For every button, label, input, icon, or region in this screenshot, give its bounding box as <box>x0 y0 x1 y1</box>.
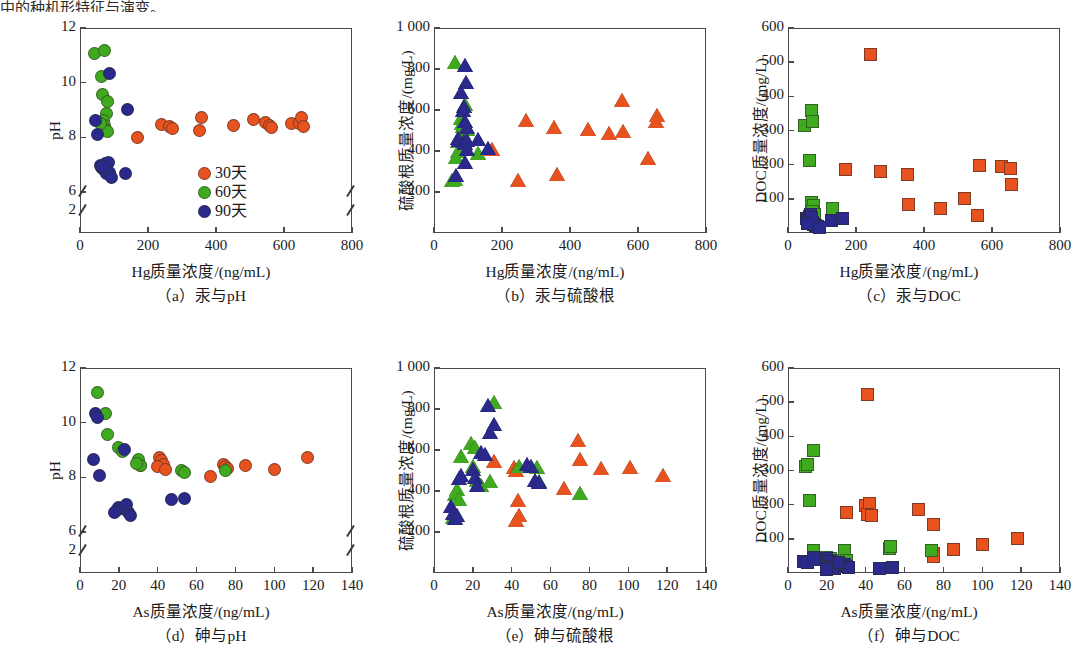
data-point-e <box>572 452 588 466</box>
x-tickmark <box>351 567 352 573</box>
legend-marker-icon <box>198 167 211 180</box>
y-tickmark <box>434 150 440 151</box>
legend-label: 30天 <box>215 163 247 182</box>
x-tickmark <box>982 567 983 573</box>
data-point-c <box>801 217 814 230</box>
data-point-a <box>166 122 179 135</box>
x-tickmark <box>855 227 856 233</box>
data-point-b <box>640 151 656 165</box>
data-point-d <box>91 411 104 424</box>
data-point-c <box>864 48 877 61</box>
x-tickmark <box>787 227 788 233</box>
data-point-c <box>839 163 852 176</box>
x-tickmark <box>923 227 924 233</box>
legend-marker-icon <box>198 205 211 218</box>
panel-caption-f: （f）砷与DOC <box>738 623 1076 645</box>
data-point-f <box>1011 532 1024 545</box>
data-point-b <box>518 113 534 127</box>
chart-panel-d: 6810122020406080100120140pHAs质量浓度/(ng/mL… <box>30 354 372 653</box>
x-tick-label: 0 <box>408 237 460 254</box>
x-tick-label: 200 <box>122 237 174 254</box>
data-point-d <box>239 459 252 472</box>
x-tickmark <box>705 567 706 573</box>
data-point-c <box>1005 178 1018 191</box>
y-tickmark <box>80 27 86 28</box>
x-tickmark <box>787 567 788 573</box>
y-tickmark <box>434 109 440 110</box>
x-tickmark <box>511 567 512 573</box>
x-tickmark <box>904 567 905 573</box>
y-tickmark <box>434 408 440 409</box>
data-point-f <box>865 509 878 522</box>
data-point-b <box>614 93 630 107</box>
x-tick-label: 800 <box>1034 237 1076 254</box>
x-tickmark <box>312 567 313 573</box>
y-tickmark <box>80 422 86 423</box>
data-point-f <box>840 506 853 519</box>
data-point-b <box>615 124 631 138</box>
data-point-e <box>486 417 502 431</box>
data-point-e <box>510 493 526 507</box>
x-tickmark <box>628 567 629 573</box>
x-tick-label: 140 <box>326 577 378 594</box>
data-point-a <box>247 113 260 126</box>
x-axis-label-d: As质量浓度/(ng/mL) <box>30 599 372 621</box>
data-point-b <box>649 108 665 122</box>
y-tickmark <box>434 27 440 28</box>
panel-caption-a: （a）汞与pH <box>30 283 372 305</box>
x-tick-label: 400 <box>544 237 596 254</box>
x-tickmark <box>433 567 434 573</box>
data-point-f <box>803 494 816 507</box>
data-point-e <box>593 461 609 475</box>
data-point-f <box>976 538 989 551</box>
x-tickmark <box>705 227 706 233</box>
y-axis-label-a: pH <box>46 28 64 233</box>
data-point-b <box>480 141 496 155</box>
data-point-d <box>91 386 104 399</box>
chart-panel-a: 68101220200400600800pHHg质量浓度/(ng/mL)（a）汞… <box>30 14 372 313</box>
data-point-b <box>510 173 526 187</box>
data-point-c <box>973 159 986 172</box>
x-tick-label: 200 <box>476 237 528 254</box>
data-point-c <box>803 154 816 167</box>
data-point-b <box>546 120 562 134</box>
data-point-e <box>531 475 547 489</box>
x-tickmark <box>235 567 236 573</box>
data-point-f <box>927 518 940 531</box>
y-tickmark <box>788 96 794 97</box>
x-tick-label: 600 <box>258 237 310 254</box>
data-point-e <box>477 447 493 461</box>
x-tickmark <box>196 567 197 573</box>
data-point-a <box>105 171 118 184</box>
y-tickmark <box>788 367 794 368</box>
data-point-e <box>469 478 485 492</box>
y-tickmark <box>788 504 794 505</box>
x-tickmark <box>550 567 551 573</box>
data-point-f <box>861 388 874 401</box>
data-point-a <box>89 114 102 127</box>
data-point-e <box>655 468 671 482</box>
y-axis-label-e: 硫酸根质量浓度/(mg/L) <box>394 368 416 573</box>
x-tickmark <box>637 227 638 233</box>
x-tickmark <box>991 227 992 233</box>
data-point-f <box>801 458 814 471</box>
data-point-f <box>807 444 820 457</box>
data-point-e <box>523 459 539 473</box>
chart-panel-b: 2004006008001 0000200400600800硫酸根质量浓度/(m… <box>384 14 726 313</box>
x-tickmark <box>215 227 216 233</box>
data-point-e <box>622 460 638 474</box>
panel-caption-d: （d）砷与pH <box>30 623 372 645</box>
data-point-f <box>884 540 897 553</box>
data-point-a <box>121 103 134 116</box>
bottom-note <box>0 657 1069 669</box>
data-point-c <box>958 192 971 205</box>
data-point-d <box>204 470 217 483</box>
data-point-e <box>511 508 527 522</box>
x-tickmark <box>1020 567 1021 573</box>
x-tickmark <box>943 567 944 573</box>
data-point-b <box>457 58 473 72</box>
y-axis-label-b: 硫酸根质量浓度/(mg/L) <box>394 28 416 233</box>
legend-label: 90天 <box>215 201 247 220</box>
data-point-c <box>874 165 887 178</box>
